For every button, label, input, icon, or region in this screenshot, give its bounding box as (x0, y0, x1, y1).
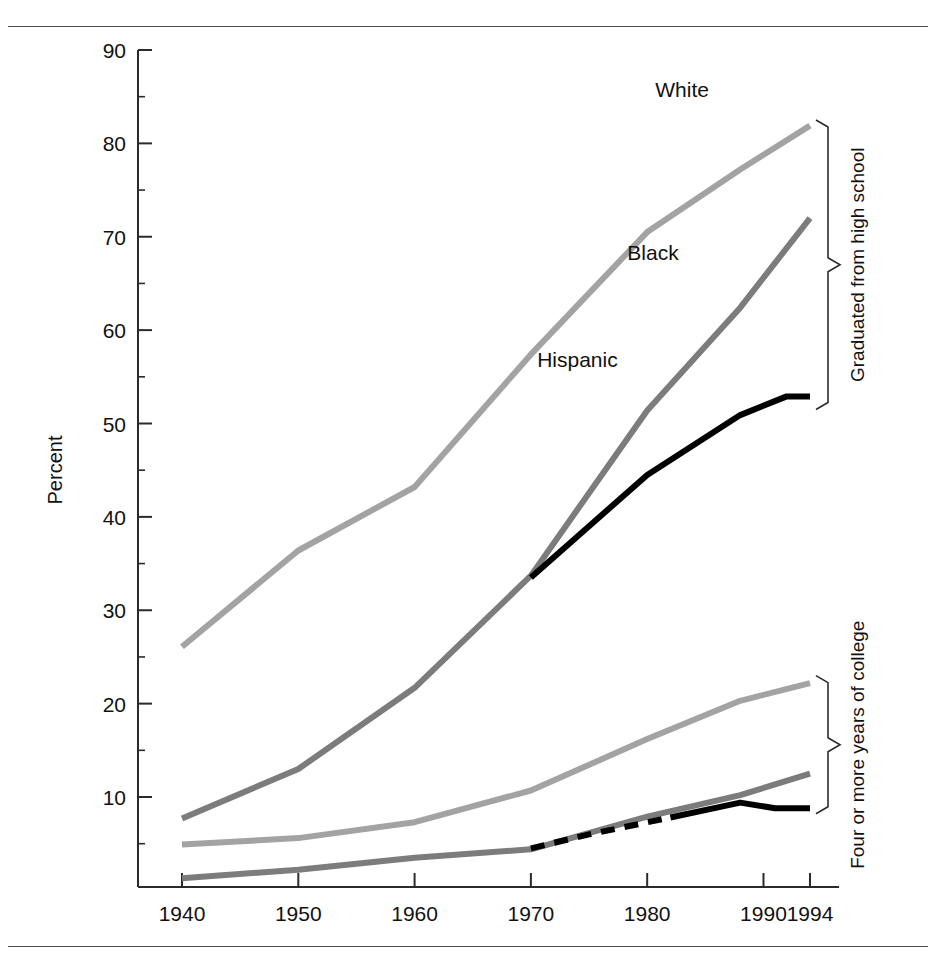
series-line-black-highschool (182, 218, 810, 818)
x-tick-label: 1960 (391, 902, 438, 925)
axes-layer: 1020304050607080901940195019601970198019… (103, 39, 839, 925)
group-bracket-highschool (816, 120, 840, 409)
series-label-hispanic: Hispanic (537, 348, 618, 371)
series-line-white-highschool (182, 126, 810, 647)
y-tick-label: 40 (103, 506, 126, 529)
group-bracket-college (816, 676, 840, 814)
x-tick-label: 1970 (508, 902, 555, 925)
y-tick-label: 90 (103, 39, 126, 62)
axis-title-layer: Percent (44, 435, 66, 504)
y-axis-title: Percent (44, 435, 66, 504)
y-tick-label: 80 (103, 132, 126, 155)
group-label-college: Four or more years of college (847, 621, 868, 869)
series-line-white-college (182, 683, 810, 845)
y-tick-label: 10 (103, 786, 126, 809)
series-label-white: White (655, 78, 709, 101)
top-rule (8, 26, 928, 27)
group-label-highschool: Graduated from high school (847, 148, 868, 382)
figure-container: 1020304050607080901940195019601970198019… (0, 0, 939, 977)
x-tick-label: 1980 (624, 902, 671, 925)
y-tick-label: 60 (103, 319, 126, 342)
brackets-layer: Graduated from high schoolFour or more y… (816, 120, 868, 869)
y-tick-label: 30 (103, 599, 126, 622)
line-chart: 1020304050607080901940195019601970198019… (0, 0, 939, 977)
series-labels-layer: WhiteBlackHispanic (537, 78, 709, 372)
series-layer (182, 126, 810, 879)
series-line-hispanic-highschool (531, 396, 810, 577)
bottom-rule (8, 946, 928, 947)
y-tick-label: 50 (103, 413, 126, 436)
x-tick-label: 1940 (159, 902, 206, 925)
series-label-black: Black (627, 241, 679, 264)
x-tick-label: 1990 (740, 902, 787, 925)
y-tick-label: 20 (103, 693, 126, 716)
x-tick-label: 1994 (787, 902, 834, 925)
x-tick-label: 1950 (275, 902, 322, 925)
y-tick-label: 70 (103, 226, 126, 249)
series-line-black-college (182, 774, 810, 879)
